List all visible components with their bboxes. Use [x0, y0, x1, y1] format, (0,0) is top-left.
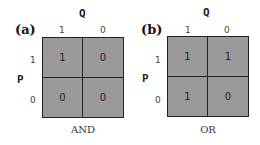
grid-cell: 0 — [43, 78, 83, 118]
column-tick: 0 — [100, 25, 106, 35]
row-tick: 1 — [30, 55, 36, 65]
row-variable-label: P — [142, 72, 149, 85]
panel-label: (b) — [141, 22, 162, 37]
column-tick: 1 — [59, 25, 65, 35]
truth-grid: 1 1 1 0 — [167, 36, 249, 117]
row-variable-label: P — [17, 73, 24, 86]
column-variable-label: Q — [203, 6, 210, 19]
row-tick: 0 — [155, 95, 161, 105]
grid-cell: 0 — [208, 77, 248, 117]
grid-cell: 0 — [83, 38, 123, 78]
row-tick: 1 — [155, 55, 161, 65]
grid-cell: 0 — [83, 78, 123, 118]
grid-cell: 1 — [168, 37, 208, 77]
grid-cell: 1 — [168, 77, 208, 117]
panel-caption: AND — [42, 124, 124, 135]
row-tick: 0 — [30, 95, 36, 105]
panel-label: (a) — [15, 22, 36, 37]
grid-cell: 1 — [208, 37, 248, 77]
truth-grid: 1 0 0 0 — [42, 37, 124, 118]
column-tick: 1 — [185, 25, 191, 35]
column-tick: 0 — [224, 25, 230, 35]
grid-cell: 1 — [43, 38, 83, 78]
column-variable-label: Q — [79, 7, 86, 20]
panel-caption: OR — [167, 124, 249, 135]
